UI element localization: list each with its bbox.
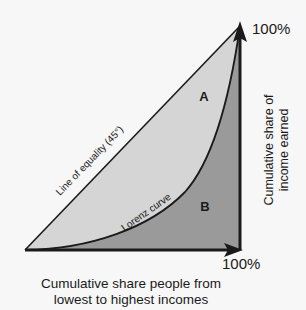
x-axis-title-line2: lowest to highest incomes [54,292,209,307]
lorenz-curve-svg: 100% 100% A B Line of equality (45°) Lor… [0,0,306,310]
region-a-label: A [199,89,209,104]
x-axis-title-line1: Cumulative share people from [41,276,221,291]
region-b-label: B [200,199,209,214]
lorenz-curve-figure: 100% 100% A B Line of equality (45°) Lor… [0,0,306,310]
y-axis-tick-label: 100% [252,20,290,37]
y-axis-title-line1: Cumulative share of [262,94,276,206]
y-axis-title: Cumulative share ofincome earned [262,94,291,206]
y-axis-title-line2: income earned [277,109,291,192]
x-axis-tick-label: 100% [222,255,260,272]
